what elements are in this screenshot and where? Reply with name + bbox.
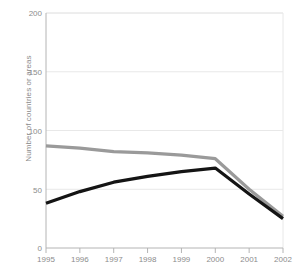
x-tick-label-1998: 1998 [133,255,163,264]
x-tick-label-2002: 2002 [268,255,297,264]
x-tick-label-2000: 2000 [200,255,230,264]
x-tick-label-1996: 1996 [65,255,95,264]
x-tick-label-1999: 1999 [166,255,196,264]
x-axis-ticks [46,248,283,253]
x-tick-label-1995: 1995 [31,255,61,264]
series-line-gray-series [46,146,283,217]
gridlines [46,13,283,248]
plot-area [0,0,297,278]
line-chart: Number of countries or areas 200 150 100… [0,0,297,278]
data-series [46,146,283,219]
x-tick-label-2001: 2001 [234,255,264,264]
series-line-black-series [46,168,283,219]
x-tick-label-1997: 1997 [99,255,129,264]
